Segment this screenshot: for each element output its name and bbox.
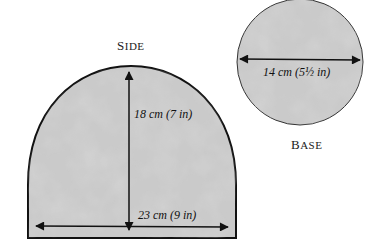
- diameter-arrow: [240, 59, 360, 60]
- width-arrow: [36, 226, 228, 227]
- side-title: SIDE: [117, 38, 145, 54]
- side-title-initial: S: [117, 38, 125, 53]
- base-title: BASE: [291, 137, 322, 153]
- base-piece: [237, 0, 363, 125]
- base-diameter-label: 14 cm (5½ in): [263, 65, 330, 80]
- base-title-rest: ASE: [300, 139, 322, 151]
- side-title-rest: IDE: [125, 40, 145, 52]
- base-title-initial: B: [291, 137, 300, 152]
- side-height-label: 18 cm (7 in): [134, 107, 192, 122]
- side-width-label: 23 cm (9 in): [138, 208, 196, 223]
- side-piece: [28, 66, 236, 238]
